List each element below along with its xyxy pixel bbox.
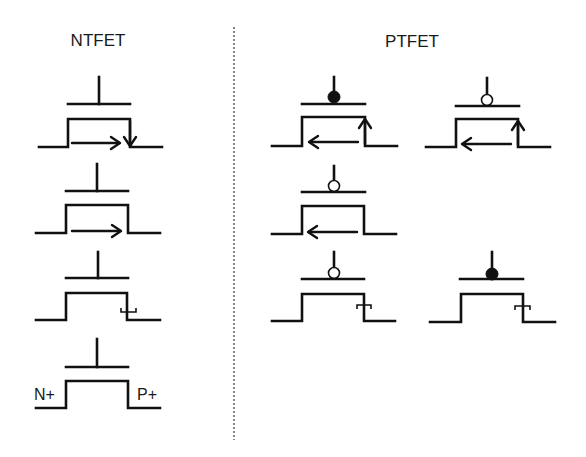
open-gate-circle-icon [329, 268, 340, 279]
ntfet-symbol-4: N+ P+ [34, 339, 160, 408]
open-gate-circle-icon [482, 95, 493, 106]
channel-body [36, 293, 160, 320]
arrow-up-icon [359, 119, 371, 144]
ptfet-symbol-5 [430, 252, 555, 322]
tunnel-junction-icon [121, 308, 136, 312]
ptfet-symbol-1 [272, 77, 397, 148]
drain-doping-label: P+ [137, 386, 157, 403]
arrow-left-icon [309, 136, 358, 148]
ptfet-symbol-3 [272, 166, 396, 238]
channel-body [272, 206, 396, 234]
channel-body [272, 294, 395, 321]
arrow-down-icon [124, 121, 136, 146]
ptfet-title: PTFET [385, 32, 439, 51]
filled-gate-dot-icon [328, 91, 340, 103]
arrow-left-icon [462, 138, 511, 150]
ptfet-symbol-4 [272, 252, 395, 321]
arrow-up-icon [512, 121, 524, 145]
ntfet-symbol-2 [36, 164, 160, 237]
ntfet-symbol-1 [39, 77, 162, 149]
arrow-left-icon [308, 226, 357, 238]
ptfet-symbol-2 [426, 78, 550, 150]
ntfet-symbol-3 [36, 252, 160, 320]
channel-body [36, 205, 160, 233]
ntfet-title: NTFET [71, 31, 126, 50]
source-doping-label: N+ [34, 386, 55, 403]
open-gate-circle-icon [329, 181, 340, 192]
arrow-right-icon [72, 225, 121, 237]
arrow-right-icon [72, 137, 120, 149]
tfet-symbol-diagram: NTFET PTFET N [0, 0, 586, 457]
channel-body [430, 294, 555, 322]
